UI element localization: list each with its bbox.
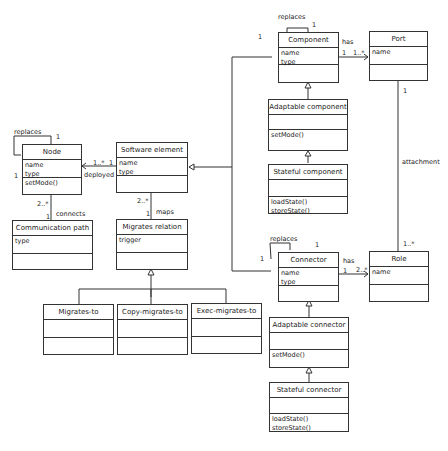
class-name: Role — [370, 252, 428, 267]
op-setmode: setMode() — [25, 179, 79, 188]
component-replaces-mult-2: 1 — [258, 33, 262, 41]
class-adaptable-connector[interactable]: Adaptable connector setMode() — [269, 317, 349, 368]
class-name: Migrates relation — [117, 220, 187, 235]
attr-type: type — [15, 237, 90, 246]
attr-name: name — [372, 268, 426, 277]
connects-mult-1: 2..* — [37, 200, 49, 208]
class-name: Exec-migrates-to — [192, 304, 261, 319]
maps-mult-2: 1 — [146, 210, 150, 218]
node-replaces-mult-2: 1 — [14, 172, 18, 180]
deployed-label: deployed — [84, 171, 114, 179]
class-name: Stateful component — [269, 165, 347, 180]
connector-replaces-mult-1: 1 — [315, 241, 319, 249]
class-name: Software element — [117, 143, 187, 158]
op-storestate: storeState() — [272, 424, 346, 433]
component-port-mult-2: 1..* — [353, 49, 365, 57]
class-software-element[interactable]: Software element nametype — [116, 142, 188, 193]
class-migrates-to[interactable]: Migrates-to — [43, 304, 114, 355]
attr-name: name — [119, 159, 185, 168]
class-name: Adaptable component — [269, 100, 347, 115]
component-replaces-mult-1: 1 — [312, 21, 316, 29]
class-node[interactable]: Node nametype setMode() — [22, 144, 82, 195]
port-role-attachment-label: attachment — [402, 158, 440, 166]
class-connector[interactable]: Connector nametype — [278, 252, 339, 302]
connector-replaces-label: replaces — [270, 235, 297, 243]
class-name: Node — [23, 145, 81, 160]
connects-label: connects — [56, 210, 85, 218]
attr-name: name — [281, 49, 336, 58]
connector-replaces-mult-2: 1 — [260, 255, 264, 263]
maps-mult-1: 2..* — [137, 197, 149, 205]
class-name: Adaptable connector — [270, 318, 348, 333]
attr-name: name — [372, 48, 425, 57]
class-adaptable-component[interactable]: Adaptable component setMode() — [268, 99, 348, 151]
class-port[interactable]: Port name — [369, 31, 428, 81]
op-setmode: setMode() — [271, 131, 345, 140]
port-role-mult-1: 1 — [403, 87, 407, 95]
class-stateful-component[interactable]: Stateful component loadState()storeState… — [268, 164, 348, 214]
component-port-has-label: has — [342, 38, 354, 46]
op-setmode: setMode() — [272, 351, 346, 360]
connector-role-mult-1: 1 — [343, 267, 347, 275]
node-replaces-label: replaces — [14, 128, 41, 136]
deployed-mult-2: 1 — [109, 159, 113, 167]
class-stateful-connector[interactable]: Stateful connector loadState()storeState… — [269, 382, 349, 432]
class-component[interactable]: Component nametype — [278, 32, 339, 83]
component-port-mult-1: 1 — [342, 49, 346, 57]
class-name: Stateful connector — [270, 383, 348, 398]
class-name: Migrates-to — [44, 305, 113, 320]
class-name: Component — [279, 33, 338, 48]
maps-label: maps — [156, 208, 174, 216]
class-name: Copy-migrates-to — [118, 305, 187, 320]
connector-role-has-label: has — [343, 257, 355, 265]
class-name: Communication path — [13, 221, 92, 236]
class-role[interactable]: Role name — [369, 251, 429, 302]
class-exec-migrates-to[interactable]: Exec-migrates-to — [191, 303, 262, 354]
class-communication-path[interactable]: Communication path type — [12, 220, 93, 270]
connector-role-mult-2: 2..* — [356, 266, 368, 274]
attr-name: name — [25, 161, 79, 170]
class-name: Port — [370, 32, 427, 47]
port-role-mult-2: 1..* — [403, 240, 415, 248]
class-copy-migrates-to[interactable]: Copy-migrates-to — [117, 304, 188, 355]
op-loadstate: loadState() — [271, 198, 345, 207]
connects-mult-2: 1 — [46, 213, 50, 221]
component-replaces-label: replaces — [278, 13, 305, 21]
deployed-mult-1: 1..* — [93, 159, 105, 167]
op-storestate: storeState() — [271, 207, 345, 216]
attr-name: name — [281, 269, 336, 278]
op-loadstate: loadState() — [272, 415, 346, 424]
class-migrates-relation[interactable]: Migrates relation trigger — [116, 219, 188, 270]
node-replaces-mult-1: 1 — [56, 133, 60, 141]
attr-trigger: trigger — [119, 236, 185, 245]
class-name: Connector — [279, 253, 338, 268]
